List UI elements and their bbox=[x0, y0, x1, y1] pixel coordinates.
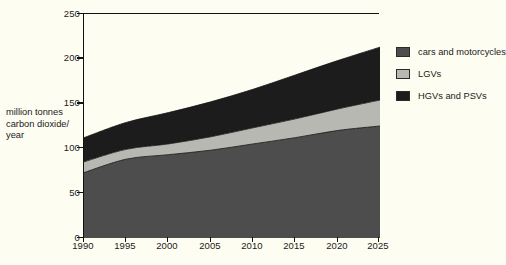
legend-label-hgvs: HGVs and PSVs bbox=[418, 91, 487, 101]
legend-swatch-icon-hgvs bbox=[396, 91, 410, 101]
x-tick-label-2015: 2015 bbox=[274, 241, 314, 251]
x-tick-label-2020: 2020 bbox=[317, 241, 357, 251]
chart-legend: cars and motorcycles LGVs HGVs and PSVs bbox=[396, 43, 502, 109]
x-tick-label-2000: 2000 bbox=[147, 241, 187, 251]
x-tick-label-1990: 1990 bbox=[63, 241, 103, 251]
x-tick-label-1995: 1995 bbox=[105, 241, 145, 251]
legend-swatch-icon-cars bbox=[396, 47, 410, 57]
plot-area bbox=[83, 13, 379, 237]
legend-label-lgvs: LGVs bbox=[418, 69, 441, 79]
legend-item-cars-and-motorcycles: cars and motorcycles bbox=[396, 43, 502, 60]
y-axis-title: million tonnes carbon dioxide/ year bbox=[6, 107, 80, 142]
legend-swatch-icon-lgvs bbox=[396, 69, 410, 79]
legend-label-cars: cars and motorcycles bbox=[418, 47, 506, 57]
x-tick-label-2010: 2010 bbox=[232, 241, 272, 251]
x-tick-label-2005: 2005 bbox=[190, 241, 230, 251]
legend-item-hgvs-and-psvs: HGVs and PSVs bbox=[396, 87, 502, 104]
stacked-area-svg bbox=[84, 14, 380, 238]
x-tick-label-2025: 2025 bbox=[358, 241, 398, 251]
legend-item-lgvs: LGVs bbox=[396, 65, 502, 82]
